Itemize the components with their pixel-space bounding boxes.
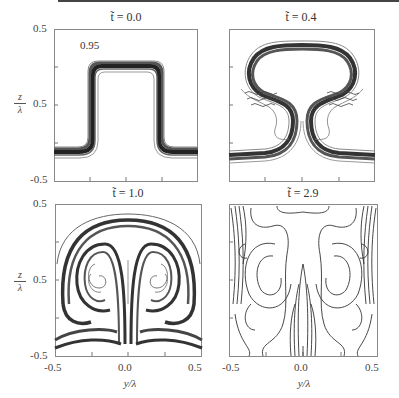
panel-4-plot	[229, 204, 378, 357]
xtick-right-p4: 0.5	[365, 361, 379, 373]
page-top-rule	[58, 0, 399, 2]
panel-3-plot	[55, 204, 202, 357]
ylabel-denominator: λ	[18, 282, 22, 293]
xlabel-p3: y/λ	[100, 377, 160, 389]
xtick-left-p3: -0.5	[44, 361, 61, 373]
ylabel-row2: z λ	[14, 270, 26, 293]
ytick-bot-row1: -0.5	[30, 173, 47, 185]
panel-4-title: t̃ = 2.9	[243, 186, 363, 201]
panel-2-plot	[229, 29, 375, 182]
panel-3-title: t̃ = 1.0	[68, 186, 188, 201]
ylabel-numerator: z	[18, 269, 22, 280]
ylabel-row1: z λ	[14, 92, 26, 115]
ytick-mid-row1: 0.5	[33, 97, 47, 109]
contour-level-label: 0.95	[80, 39, 99, 51]
xtick-right-p3: 0.5	[188, 361, 202, 373]
xtick-mid-p4: 0.0	[294, 361, 308, 373]
panel-1-plot	[54, 29, 198, 182]
panel-2-title: t̃ = 0.4	[241, 10, 361, 25]
ylabel-denominator: λ	[18, 104, 22, 115]
ytick-top-row2: 0.5	[33, 197, 47, 209]
ytick-mid-row2: 0.5	[33, 273, 47, 285]
xtick-left-p4: -0.5	[222, 361, 239, 373]
xlabel-p4: y/λ	[274, 377, 334, 389]
ylabel-numerator: z	[18, 91, 22, 102]
ytick-bot-row2: -0.5	[30, 349, 47, 361]
panel-1-title: t̃ = 0.0	[66, 10, 186, 25]
xtick-mid-p3: 0.0	[118, 361, 132, 373]
ytick-top-row1: 0.5	[33, 22, 47, 34]
